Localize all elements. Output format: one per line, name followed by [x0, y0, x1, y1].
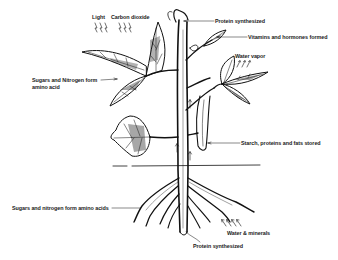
label-sugars-nitrogen-leaf-line1: Sugars and Nitrogen form [32, 77, 97, 84]
leaf-lower-left [111, 116, 150, 156]
leaf-cluster-right [214, 56, 268, 104]
label-carbon-dioxide: Carbon dioxide [111, 14, 150, 21]
label-protein-synthesized-top: Protein synthesized [215, 18, 265, 25]
label-starch-proteins-fats: Starch, proteins and fats stored [241, 140, 321, 147]
label-water-minerals: Water & minerals [227, 230, 270, 237]
light-arrows [95, 23, 107, 32]
water-minerals-arrows [222, 220, 242, 227]
bean-pod [197, 96, 210, 150]
soil-line [113, 165, 260, 166]
carbon-dioxide-arrows [119, 23, 131, 32]
roots [134, 178, 254, 235]
leader-lines [101, 20, 247, 242]
label-light: Light [92, 14, 105, 21]
water-vapor-arrows [237, 61, 251, 68]
label-sugars-nitrogen-leaf-line2: amino acid [32, 84, 60, 91]
leaf-cluster-upper-left [82, 22, 165, 106]
label-water-vapor: Water vapor [235, 53, 265, 60]
label-protein-synthesized-root: Protein synthesized [193, 243, 243, 250]
label-sugars-nitrogen-root: Sugars and nitrogen form amino acids [12, 205, 109, 212]
label-vitamins-hormones: Vitamins and hormones formed [248, 34, 327, 41]
